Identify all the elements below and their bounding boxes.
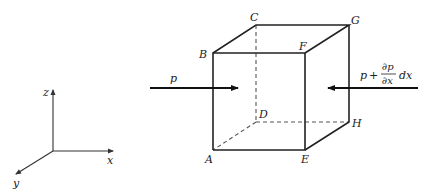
fluid-element-diagram: z x y B C G F D H A E p p + ∂p ∂x dx	[0, 0, 429, 196]
vertex-H-label: H	[351, 117, 362, 130]
top-face	[213, 25, 349, 53]
vertex-A-label: A	[204, 153, 213, 166]
right-force-dx: dx	[399, 69, 413, 82]
left-force-label: p	[170, 72, 177, 85]
vertex-G-label: G	[351, 14, 360, 27]
right-force-plus: +	[369, 69, 378, 82]
z-axis-label: z	[42, 86, 49, 99]
right-pressure-force: p + ∂p ∂x dx	[328, 61, 418, 88]
left-pressure-force: p	[150, 72, 238, 88]
vertex-D-label: D	[258, 108, 268, 121]
vertex-B-label: B	[198, 48, 207, 61]
vertex-F-label: F	[298, 40, 307, 53]
coordinate-axes: z x y	[12, 86, 114, 190]
edge-D-A	[213, 122, 256, 150]
right-force-numerator: ∂p	[382, 61, 394, 72]
vertex-E-label: E	[300, 153, 309, 166]
y-axis	[16, 151, 53, 174]
right-force-p: p	[360, 69, 367, 82]
y-axis-label: y	[12, 177, 20, 190]
right-force-denominator: ∂x	[382, 75, 393, 86]
front-face	[213, 53, 305, 150]
vertex-C-label: C	[250, 11, 259, 24]
x-axis-label: x	[107, 154, 114, 167]
